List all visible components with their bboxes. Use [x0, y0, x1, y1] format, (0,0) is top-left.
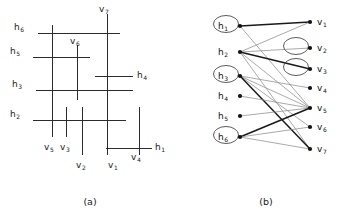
panel-b-bipartite-graph: h1h2h3h4h5h6v1v2v3v4v5v6v7 [180, 0, 352, 221]
graph-node-h4[interactable] [238, 94, 242, 98]
label-h2: h2 [10, 109, 20, 120]
graph-node-v1[interactable] [308, 20, 312, 24]
graph-node-h2[interactable] [238, 50, 242, 54]
label-h3: h3 [12, 79, 22, 90]
graph-node-v7[interactable] [308, 147, 312, 151]
graph-node-h3[interactable] [238, 74, 242, 78]
node-highlight-ring-v2 [284, 38, 309, 55]
graph-edge-h1-v1 [240, 22, 310, 26]
graph-edge-h2-v2 [240, 48, 310, 52]
graph-nodes-group: h1h2h3h4h5h6v1v2v3v4v5v6v7 [214, 16, 327, 155]
graph-node-v4[interactable] [308, 86, 312, 90]
label-v2: v2 [76, 160, 86, 171]
graph-node-v6[interactable] [308, 125, 312, 129]
label-v7: v7 [99, 4, 109, 15]
node-label-v6: v6 [317, 122, 327, 133]
node-label-v4: v4 [317, 83, 327, 94]
graph-edge-h3-v5 [240, 76, 310, 108]
graph-edge-h2-v1 [240, 22, 310, 52]
node-label-h6: h6 [218, 132, 228, 143]
node-label-h3: h3 [218, 71, 228, 82]
horizontal-segments-group [33, 33, 152, 148]
caption-b: (b) [180, 196, 352, 207]
label-h6: h6 [14, 22, 24, 33]
node-label-v7: v7 [317, 144, 327, 155]
graph-node-v3[interactable] [308, 67, 312, 71]
graph-node-h1[interactable] [238, 24, 242, 28]
graph-edges-group [240, 22, 310, 149]
panel-a-segment-arrangement: v7v6v5v3v2v1v4h6h5h4h3h2h1 [0, 0, 180, 221]
label-v5: v5 [44, 142, 54, 153]
node-label-h1: h1 [218, 21, 228, 32]
label-v3: v3 [60, 142, 70, 153]
node-label-h2: h2 [218, 47, 228, 58]
label-h5: h5 [10, 46, 20, 57]
graph-node-v2[interactable] [308, 46, 312, 50]
node-label-v5: v5 [317, 103, 327, 114]
node-label-h5: h5 [218, 111, 228, 122]
graph-node-v5[interactable] [308, 106, 312, 110]
graph-edge-h4-v5 [240, 96, 310, 108]
node-label-h4: h4 [218, 91, 228, 102]
caption-a: (a) [0, 196, 180, 207]
vertical-segments-group [52, 14, 139, 155]
label-h1: h1 [155, 142, 165, 153]
node-label-v1: v1 [317, 17, 327, 28]
graph-node-h5[interactable] [238, 114, 242, 118]
bipartite-graph-svg: h1h2h3h4h5h6v1v2v3v4v5v6v7 [180, 0, 352, 190]
label-h4: h4 [137, 70, 147, 81]
segment-arrangement-svg: v7v6v5v3v2v1v4h6h5h4h3h2h1 [0, 0, 180, 190]
node-label-v3: v3 [317, 64, 327, 75]
node-label-v2: v2 [317, 43, 327, 54]
segment-labels-group: v7v6v5v3v2v1v4h6h5h4h3h2h1 [10, 4, 165, 171]
graph-node-h6[interactable] [238, 135, 242, 139]
label-v1: v1 [108, 160, 118, 171]
figure-root: v7v6v5v3v2v1v4h6h5h4h3h2h1 h1h2h3h4h5h6v… [0, 0, 352, 221]
label-v6: v6 [70, 36, 80, 47]
graph-edge-h3-v6 [240, 76, 310, 127]
